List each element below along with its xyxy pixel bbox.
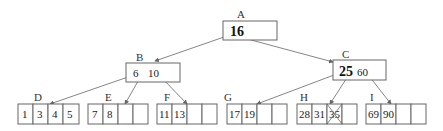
leaf-i-value-1: 90 — [383, 108, 395, 120]
leaf-d-value-3: 5 — [67, 108, 73, 120]
leaf-e-cell-2 — [118, 104, 133, 124]
node-b-key-0: 6 — [133, 67, 139, 79]
leaf-h-value-0: 28 — [299, 108, 311, 120]
leaf-e-value-1: 8 — [107, 108, 113, 120]
leaf-label-i: I — [370, 91, 374, 103]
node-a-key-0: 16 — [230, 24, 244, 39]
node-label-c: C — [342, 48, 349, 60]
node-label-b: B — [136, 51, 143, 63]
leaf-label-g: G — [224, 91, 232, 103]
edge-c-g — [257, 75, 334, 104]
leaf-f-value-0: 11 — [159, 108, 170, 120]
leaf-g-value-0: 17 — [229, 108, 241, 120]
leaf-e: E 7 8 — [88, 91, 148, 124]
leaf-g-value-1: 19 — [244, 108, 256, 120]
leaf-f-cell-3 — [202, 104, 217, 124]
leaf-d-value-2: 4 — [52, 108, 58, 120]
leaf-e-cell-3 — [133, 104, 148, 124]
leaf-h-value-1: 31 — [314, 108, 325, 120]
leaf-e-value-0: 7 — [92, 108, 98, 120]
leaf-i-value-0: 69 — [368, 108, 380, 120]
node-a: A 16 — [223, 8, 277, 40]
node-b-key-1: 10 — [148, 67, 160, 79]
leaf-label-d: D — [34, 91, 42, 103]
edge-a-c — [240, 37, 333, 62]
leaf-i-cell-3 — [411, 104, 426, 124]
leaf-f-value-1: 13 — [174, 108, 186, 120]
leaf-f-cell-2 — [187, 104, 202, 124]
leaf-f: F 11 13 — [157, 91, 217, 124]
leaf-d: D 1 3 4 5 — [18, 91, 79, 124]
node-label-a: A — [237, 8, 245, 20]
leaf-d-value-1: 3 — [37, 108, 43, 120]
b-tree-diagram: A 16 B 6 10 C 25 60 D 1 3 4 5 E 7 8 — [0, 0, 443, 131]
leaf-label-h: H — [300, 91, 308, 103]
edge-b-d — [50, 77, 128, 104]
edge-a-b — [155, 37, 224, 61]
leaf-g-cell-3 — [272, 104, 287, 124]
leaf-label-e: E — [105, 91, 112, 103]
leaf-g-cell-2 — [257, 104, 272, 124]
node-c: C 25 60 — [333, 48, 386, 80]
leaf-i: I 69 90 — [366, 91, 426, 124]
leaf-h: H 28 31 35 — [297, 91, 357, 124]
leaf-label-f: F — [164, 91, 170, 103]
node-b: B 6 10 — [126, 51, 180, 82]
leaf-h-cell-3 — [342, 104, 357, 124]
leaf-i-cell-2 — [396, 104, 411, 124]
node-c-key-0: 25 — [339, 64, 353, 79]
leaf-d-value-0: 1 — [22, 108, 28, 120]
node-c-key-1: 60 — [357, 66, 369, 78]
